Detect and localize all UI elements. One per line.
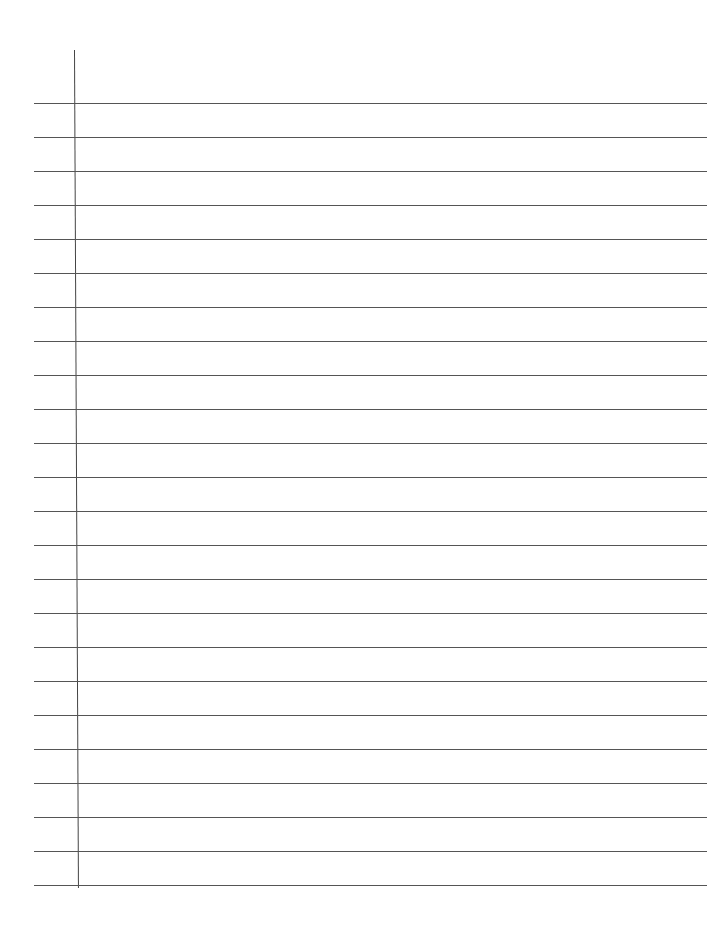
ruled-line xyxy=(34,545,707,546)
ruled-line xyxy=(34,137,707,138)
ruled-line xyxy=(34,885,707,886)
ruled-line xyxy=(34,613,707,614)
ruled-line xyxy=(34,715,707,716)
ruled-line xyxy=(34,851,707,852)
ruled-line xyxy=(34,817,707,818)
ruled-line xyxy=(34,103,707,104)
ruled-line xyxy=(34,579,707,580)
ruled-line xyxy=(34,239,707,240)
lined-paper xyxy=(0,0,717,934)
ruled-line xyxy=(34,477,707,478)
ruled-line xyxy=(34,171,707,172)
ruled-line xyxy=(34,375,707,376)
ruled-line xyxy=(34,341,707,342)
ruled-line xyxy=(34,647,707,648)
ruled-line xyxy=(34,749,707,750)
ruled-line xyxy=(34,681,707,682)
ruled-line xyxy=(34,443,707,444)
ruled-line xyxy=(34,783,707,784)
ruled-line xyxy=(34,273,707,274)
ruled-line xyxy=(34,409,707,410)
ruled-line xyxy=(34,307,707,308)
margin-line xyxy=(74,50,79,888)
ruled-line xyxy=(34,205,707,206)
ruled-line xyxy=(34,511,707,512)
